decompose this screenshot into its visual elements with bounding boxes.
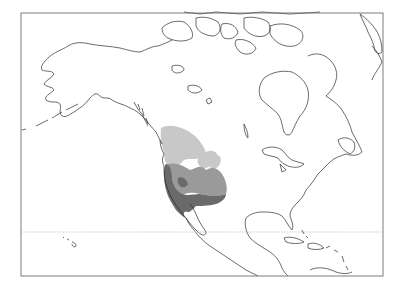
map-background xyxy=(0,0,403,287)
range-map xyxy=(0,0,403,287)
